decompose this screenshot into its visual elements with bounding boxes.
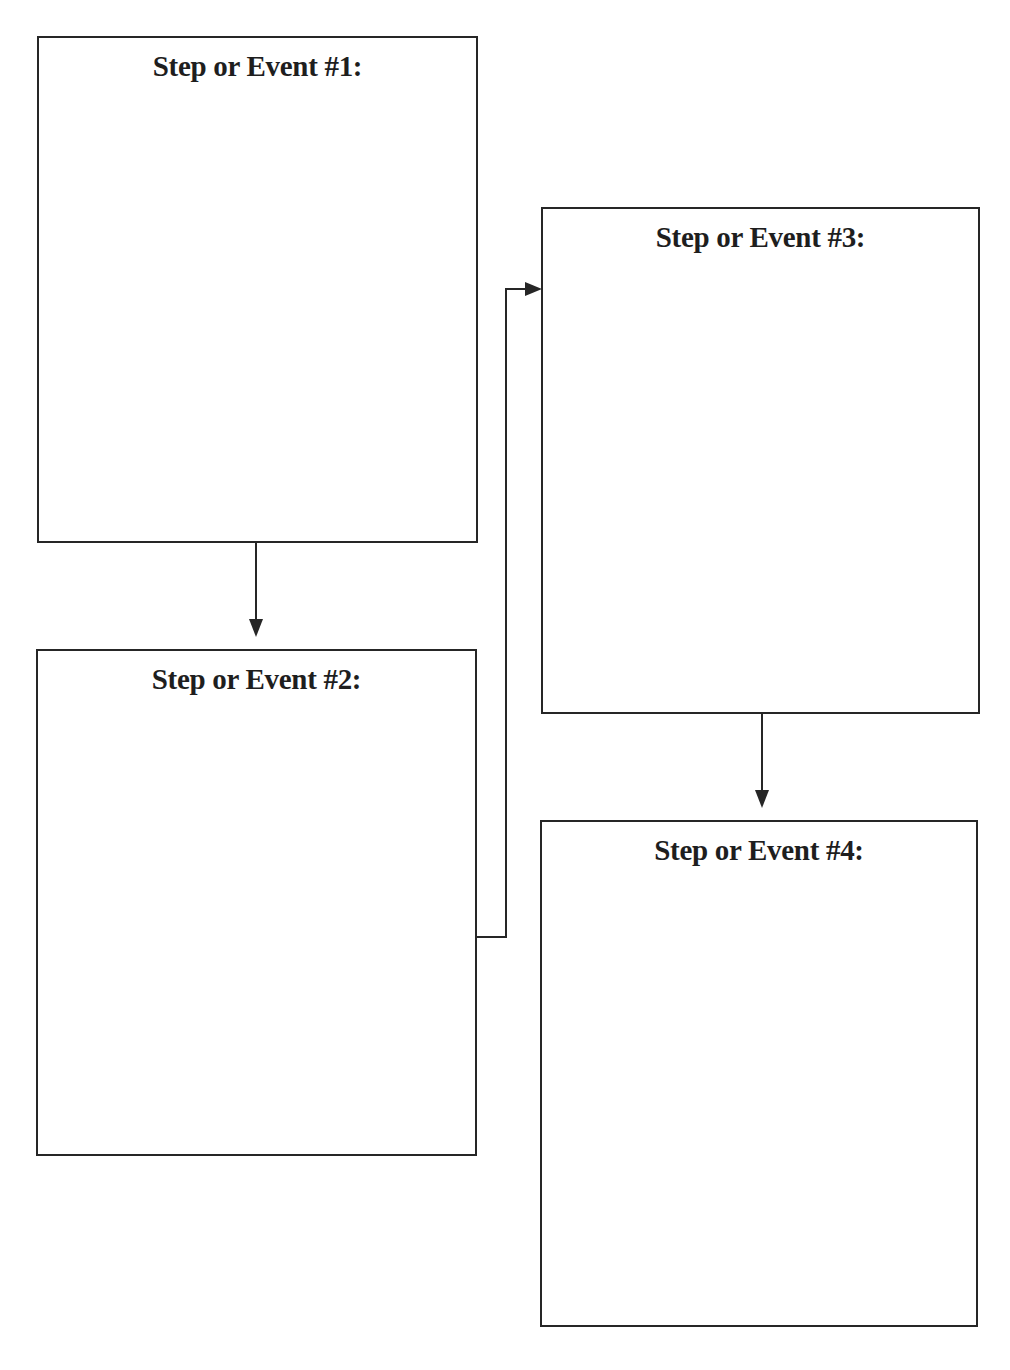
arrow-3-to-4 (755, 714, 769, 808)
connector-layer (0, 0, 1010, 1370)
arrow-1-to-2 (249, 543, 263, 637)
arrowhead-down-icon (249, 619, 263, 637)
arrowhead-right-icon (525, 282, 542, 296)
arrowhead-down-icon (755, 790, 769, 808)
arrow-2-to-3 (477, 282, 542, 937)
